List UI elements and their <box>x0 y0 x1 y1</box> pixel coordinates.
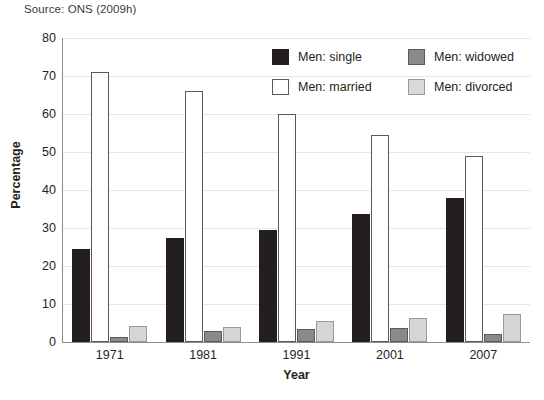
legend-label: Men: single <box>298 50 362 64</box>
bar-single-1981 <box>166 238 184 342</box>
bar-married-1981 <box>185 91 203 342</box>
legend-item-divorced[interactable]: Men: divorced <box>408 77 513 97</box>
bar-single-1971 <box>72 249 90 342</box>
y-tick-label: 0 <box>10 335 56 349</box>
legend-item-single[interactable]: Men: single <box>272 47 362 67</box>
bar-chart: 01020304050607080 Percentage 19711981199… <box>0 0 544 400</box>
bar-divorced-1981 <box>223 327 241 342</box>
bar-married-1971 <box>91 72 109 342</box>
bar-married-2001 <box>371 135 389 342</box>
x-axis-line <box>63 342 530 343</box>
legend-swatch-widowed-icon <box>408 49 425 65</box>
bar-divorced-1991 <box>316 321 334 342</box>
bar-single-2001 <box>352 214 370 342</box>
gridline <box>63 38 530 39</box>
x-tick-label: 2001 <box>350 348 430 362</box>
bar-divorced-2001 <box>409 318 427 342</box>
y-tick-label: 70 <box>10 69 56 83</box>
bar-widowed-1981 <box>204 331 222 342</box>
x-tick-label: 1981 <box>163 348 243 362</box>
y-axis-title: Percentage <box>9 115 23 235</box>
bar-widowed-1991 <box>297 329 315 342</box>
bar-widowed-2007 <box>484 334 502 342</box>
chart-legend: Men: singleMen: widowedMen: marriedMen: … <box>272 47 530 103</box>
legend-swatch-single-icon <box>272 49 289 65</box>
legend-item-married[interactable]: Men: married <box>272 77 372 97</box>
x-tick-label: 1991 <box>257 348 337 362</box>
gridline <box>63 152 530 153</box>
legend-label: Men: widowed <box>434 50 514 64</box>
legend-swatch-married-icon <box>272 79 289 95</box>
x-axis-tick-labels: 19711981199120012007 <box>63 348 530 370</box>
bar-widowed-1971 <box>110 337 128 342</box>
bar-divorced-1971 <box>129 326 147 342</box>
x-tick-label: 2007 <box>443 348 523 362</box>
legend-swatch-divorced-icon <box>408 79 425 95</box>
bar-married-1991 <box>278 114 296 342</box>
y-tick-label: 80 <box>10 31 56 45</box>
gridline <box>63 190 530 191</box>
legend-item-widowed[interactable]: Men: widowed <box>408 47 514 67</box>
legend-label: Men: divorced <box>434 80 513 94</box>
y-tick-label: 20 <box>10 259 56 273</box>
bar-married-2007 <box>465 156 483 342</box>
y-tick-label: 10 <box>10 297 56 311</box>
bar-divorced-2007 <box>503 314 521 343</box>
bar-single-2007 <box>446 198 464 342</box>
x-tick-label: 1971 <box>70 348 150 362</box>
bar-widowed-2001 <box>390 328 408 342</box>
legend-label: Men: married <box>298 80 372 94</box>
gridline <box>63 114 530 115</box>
bar-single-1991 <box>259 230 277 342</box>
x-axis-title: Year <box>63 368 530 382</box>
